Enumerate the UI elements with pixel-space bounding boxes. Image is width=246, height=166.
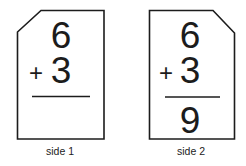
bottom-number: 3 (180, 50, 201, 91)
card-side-2: 6 + 3 9 side 2 (150, 11, 235, 158)
answer-number: 9 (180, 100, 201, 141)
flashcard-figure: 6 + 3 side 1 6 + 3 9 side 2 (0, 0, 246, 166)
plus-operator: + (159, 59, 173, 86)
card-label: side 1 (46, 145, 74, 157)
flashcard-diagram: 6 + 3 side 1 6 + 3 9 side 2 (0, 0, 246, 166)
card-label: side 2 (177, 145, 205, 157)
plus-operator: + (29, 59, 43, 86)
card-side-1: 6 + 3 side 1 (18, 11, 105, 158)
bottom-number: 3 (51, 50, 72, 91)
